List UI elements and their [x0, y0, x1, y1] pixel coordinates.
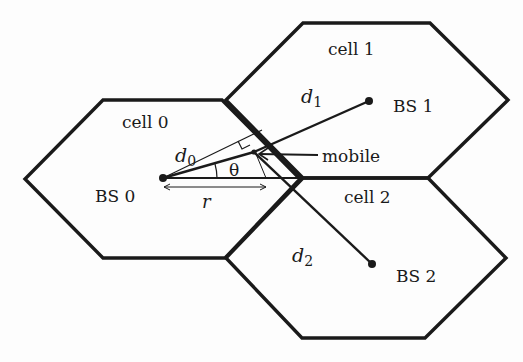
d0-label: d0 [175, 144, 196, 169]
diagram-canvas: cell 0 cell 1 cell 2 BS 0 BS 1 BS 2 mobi… [0, 0, 523, 362]
d2-label: d2 [292, 244, 313, 269]
theta-arc [215, 164, 217, 178]
cell-1-label: cell 1 [328, 39, 375, 59]
bs1-label: BS 1 [393, 96, 433, 116]
d1-label: d1 [301, 85, 322, 110]
mobile-label: mobile [322, 146, 380, 166]
bs2-dot [368, 260, 376, 268]
d1-line [254, 101, 369, 152]
cellular-geometry-diagram: cell 0 cell 1 cell 2 BS 0 BS 1 BS 2 mobi… [0, 0, 523, 362]
mobile-dot [251, 149, 256, 154]
bs1-dot [365, 97, 373, 105]
cell-0-label: cell 0 [122, 112, 169, 132]
mobile-pointer-line [259, 154, 318, 155]
theta-label: θ [229, 160, 239, 180]
bs0-dot [159, 174, 167, 182]
bs0-label: BS 0 [95, 186, 135, 206]
bs2-label: BS 2 [396, 266, 436, 286]
right-angle-marker [238, 141, 250, 149]
radius-label: r [202, 191, 212, 212]
cell-2-label: cell 2 [344, 187, 391, 207]
